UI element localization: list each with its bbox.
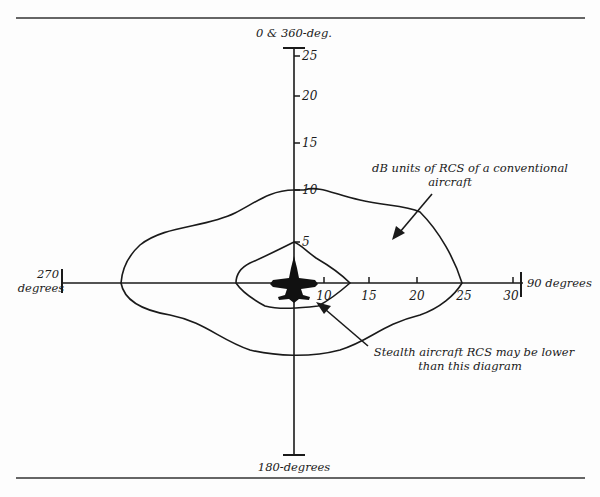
tick-h-10: 10 bbox=[316, 289, 332, 303]
axis-label-left-1: 270 bbox=[36, 267, 59, 281]
tick-v-5: 5 bbox=[302, 235, 310, 249]
stealth-note-line2: than this diagram bbox=[418, 359, 522, 373]
tick-h-25: 25 bbox=[455, 289, 471, 303]
tick-h-30: 30 bbox=[503, 289, 519, 303]
tick-h-20: 20 bbox=[408, 289, 425, 303]
stealth-annotation-arrow bbox=[316, 302, 368, 346]
tick-v-25: 25 bbox=[301, 49, 317, 63]
axis-label-right: 90 degrees bbox=[527, 276, 592, 290]
rcs-diagram: 0 & 360-deg. 180-degrees 270 degrees 90 … bbox=[0, 0, 600, 497]
tick-v-10: 10 bbox=[302, 183, 318, 197]
aircraft-silhouette-icon bbox=[270, 256, 318, 303]
tick-h-15: 15 bbox=[361, 289, 376, 303]
axis-label-bottom: 180-degrees bbox=[258, 460, 330, 474]
figure-page: 0 & 360-deg. 180-degrees 270 degrees 90 … bbox=[0, 0, 600, 497]
axis-label-left-2: degrees bbox=[18, 281, 65, 295]
axis-label-top: 0 & 360-deg. bbox=[256, 26, 332, 40]
conventional-note-line1: dB units of RCS of a conventional bbox=[372, 161, 568, 175]
tick-v-15: 15 bbox=[302, 136, 317, 150]
tick-v-20: 20 bbox=[301, 89, 318, 103]
conventional-annotation-arrow bbox=[392, 194, 432, 240]
stealth-note-line1: Stealth aircraft RCS may be lower bbox=[374, 345, 576, 359]
vertical-axis bbox=[283, 48, 305, 455]
conventional-note-line2: aircraft bbox=[428, 175, 472, 189]
